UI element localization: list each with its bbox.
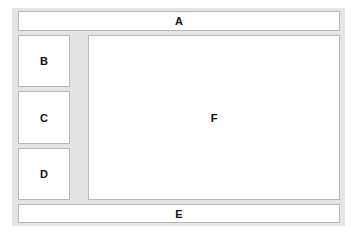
region-e-label: E xyxy=(175,208,182,220)
region-c: C xyxy=(18,91,70,144)
region-a-label: A xyxy=(175,15,183,27)
region-a-header: A xyxy=(18,11,340,31)
region-b-label: B xyxy=(40,55,48,67)
region-e-footer: E xyxy=(18,204,340,223)
region-c-label: C xyxy=(40,112,48,124)
region-b: B xyxy=(18,35,70,87)
region-f-main: F xyxy=(88,35,340,200)
region-d-label: D xyxy=(40,168,48,180)
region-d: D xyxy=(18,148,70,200)
region-f-label: F xyxy=(211,112,218,124)
